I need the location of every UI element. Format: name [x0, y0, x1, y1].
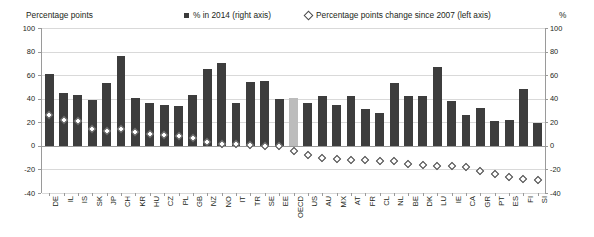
x-axis-label-cl: CL: [383, 196, 391, 206]
diamond-marker-pt: [490, 170, 498, 178]
bar-si: [533, 123, 542, 145]
x-axis-label-ee: EE: [282, 196, 290, 206]
diamond-marker-us: [304, 151, 312, 159]
filled-square-marker-icon: [184, 13, 189, 18]
bar-fi: [519, 89, 528, 146]
x-axis-label-pt: PT: [498, 196, 506, 206]
x-axis-labels: DEILISSKJPCHKRHUCZPLGBNZNOITTRSEEEOECDUS…: [42, 196, 545, 236]
diamond-marker-be: [404, 159, 412, 167]
bar-cz: [160, 105, 169, 146]
y-axis-tick-left: [38, 52, 41, 53]
x-axis-label-au: AU: [325, 196, 333, 207]
bar-kr: [131, 98, 140, 146]
y-axis-tick-right: [545, 146, 548, 147]
x-axis-label-mx: MX: [340, 196, 348, 207]
bar-gr: [476, 108, 485, 146]
x-axis-label-gb: GB: [196, 196, 204, 207]
diamond-marker-cl: [375, 157, 383, 165]
diamond-marker-gr: [476, 166, 484, 174]
diamond-marker-au: [318, 153, 326, 161]
x-axis-label-us: US: [311, 196, 319, 207]
y-axis-tick-right: [545, 52, 548, 53]
x-axis-label-it: IT: [239, 196, 247, 203]
y-axis-tick-left: [38, 28, 41, 29]
right-axis-title: %: [559, 8, 566, 22]
x-axis-label-nz: NZ: [210, 196, 218, 206]
bar-ca: [462, 115, 471, 146]
diamond-marker-mx: [332, 155, 340, 163]
x-axis-label-tr: TR: [254, 196, 262, 206]
x-axis-label-sk: SK: [96, 196, 104, 206]
y-axis-tick-right: [545, 99, 548, 100]
y-axis-label-right: 0: [550, 142, 576, 149]
bar-ie: [447, 101, 456, 146]
x-axis-label-si: SI: [541, 196, 549, 203]
bar-sk: [88, 100, 97, 146]
x-axis-label-lu: LU: [440, 196, 448, 206]
y-axis-tick-left: [38, 169, 41, 170]
diamond-marker-fi: [519, 175, 527, 183]
bar-de: [45, 74, 54, 146]
bar-se: [260, 81, 269, 146]
bar-pt: [490, 121, 499, 146]
y-axis-tick-right: [545, 75, 548, 76]
bar-es: [505, 120, 514, 146]
x-axis-label-pl: PL: [182, 196, 190, 205]
y-axis-tick-right: [545, 193, 548, 194]
x-axis-label-jp: JP: [110, 196, 118, 205]
bar-cl: [375, 113, 384, 146]
y-axis-label-right: 40: [550, 95, 576, 102]
legend-label-diamonds: Percentage points change since 2007 (lef…: [316, 8, 491, 22]
bar-dk: [418, 96, 427, 146]
bar-hu: [145, 103, 154, 145]
y-axis-label-left: 60: [9, 72, 35, 79]
y-axis-tick-left: [38, 75, 41, 76]
y-axis-label-right: 80: [550, 48, 576, 55]
bar-nz: [203, 69, 212, 146]
gridline: [42, 52, 545, 53]
x-axis-label-dk: DK: [426, 196, 434, 207]
bar-jp: [102, 83, 111, 145]
x-axis-label-hu: HU: [153, 196, 161, 207]
x-axis-label-gr: GR: [484, 196, 492, 207]
y-axis-tick-left: [38, 122, 41, 123]
y-axis-label-left: 100: [9, 25, 35, 32]
bar-oecd: [289, 98, 298, 146]
legend-item-bars: % in 2014 (right axis): [184, 8, 271, 22]
gridline: [42, 169, 545, 170]
diamond-marker-at: [347, 156, 355, 164]
y-axis-label-left: -40: [9, 190, 35, 197]
x-axis-label-kr: KR: [139, 196, 147, 207]
gridline: [42, 28, 545, 29]
legend-item-diamonds: Percentage points change since 2007 (lef…: [305, 8, 491, 22]
diamond-marker-nl: [390, 157, 398, 165]
x-axis-label-de: DE: [52, 196, 60, 207]
diamond-marker-fr: [361, 156, 369, 164]
plot-area: 100100808060604040202000-20-20-40-40: [42, 28, 545, 193]
y-axis-label-right: -20: [550, 166, 576, 173]
legend-label-bars: % in 2014 (right axis): [193, 8, 271, 22]
x-axis-label-ca: CA: [469, 196, 477, 207]
chart-container: Percentage points % in 2014 (right axis)…: [0, 0, 594, 237]
diamond-marker-oecd: [289, 146, 297, 154]
y-axis-label-left: -20: [9, 166, 35, 173]
x-axis-label-is: IS: [81, 196, 89, 203]
y-axis-tick-right: [545, 169, 548, 170]
right-axis-line: [545, 28, 546, 193]
bar-ee: [275, 99, 284, 146]
y-axis-label-right: -40: [550, 190, 576, 197]
chart-header: Percentage points % in 2014 (right axis)…: [0, 8, 594, 22]
x-axis-label-oecd: OECD: [297, 196, 305, 218]
y-axis-tick-left: [38, 146, 41, 147]
y-axis-label-left: 40: [9, 95, 35, 102]
bar-lu: [433, 67, 442, 146]
diamond-marker-dk: [419, 160, 427, 168]
bar-be: [404, 96, 413, 146]
x-axis-label-fi: FI: [527, 196, 535, 203]
x-axis-label-fr: FR: [369, 196, 377, 206]
x-axis-label-cz: CZ: [167, 196, 175, 206]
bar-fr: [361, 109, 370, 146]
bar-at: [347, 96, 356, 146]
open-diamond-marker-icon: [304, 10, 314, 20]
bar-no: [217, 63, 226, 146]
